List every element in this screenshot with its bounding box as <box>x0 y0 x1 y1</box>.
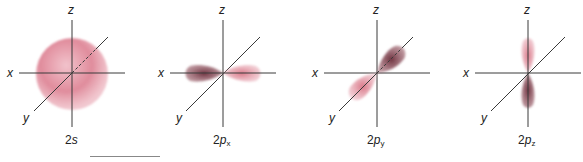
x-axis-label: x <box>312 67 318 79</box>
y-axis-label: y <box>481 112 487 124</box>
panel-2pz <box>475 20 581 127</box>
y-axis-label: y <box>176 112 182 124</box>
z-axis-label: z <box>373 4 379 16</box>
panel-2py <box>324 20 430 127</box>
orbital-label-2pz: 2pz <box>518 134 535 148</box>
orbital-diagram <box>0 0 583 162</box>
x-axis-label: x <box>7 67 13 79</box>
x-axis-label: x <box>158 67 164 79</box>
orbital-label-2py: 2py <box>367 134 384 148</box>
z-axis-label: z <box>219 4 225 16</box>
y-axis-front <box>339 73 377 111</box>
z-axis-label: z <box>524 4 530 16</box>
divider-rule <box>90 156 160 157</box>
x-axis-label: x <box>463 67 469 79</box>
z-axis-label: z <box>68 4 74 16</box>
panel-2s <box>19 20 125 127</box>
y-axis-back <box>96 37 108 49</box>
panel-2px <box>170 20 276 127</box>
y-axis-label: y <box>329 112 335 124</box>
y-axis-back <box>402 37 413 48</box>
orbital-label-2s: 2s <box>65 134 78 146</box>
y-axis-label: y <box>23 112 29 124</box>
orbital-label-2px: 2px <box>213 134 230 148</box>
